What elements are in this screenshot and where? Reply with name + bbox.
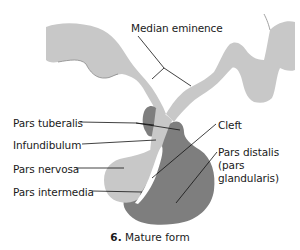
label-pars-distalis: Pars distalis — [218, 146, 279, 158]
pituitary-mature-form-diagram: Median eminence Pars tuberalis Infundibu… — [0, 0, 300, 250]
label-pars-glandularis: glandularis) — [218, 172, 279, 184]
label-cleft: Cleft — [218, 119, 242, 131]
label-pars-distalis-paren: (pars — [218, 159, 244, 171]
figure-caption: 6. Mature form — [0, 231, 300, 243]
left-hypothalamic-floor-shape — [46, 23, 166, 118]
caption-number: 6. — [110, 231, 121, 243]
label-pars-nervosa: Pars nervosa — [13, 163, 79, 175]
caption-text: Mature form — [125, 231, 190, 243]
label-infundibulum: Infundibulum — [13, 139, 81, 151]
right-hypothalamic-floor-shape — [166, 21, 295, 122]
label-median-eminence: Median eminence — [131, 22, 223, 34]
label-pars-tuberalis: Pars tuberalis — [13, 117, 83, 129]
label-pars-intermedia: Pars intermedia — [13, 186, 94, 198]
right-floor-edge-line — [264, 14, 270, 30]
